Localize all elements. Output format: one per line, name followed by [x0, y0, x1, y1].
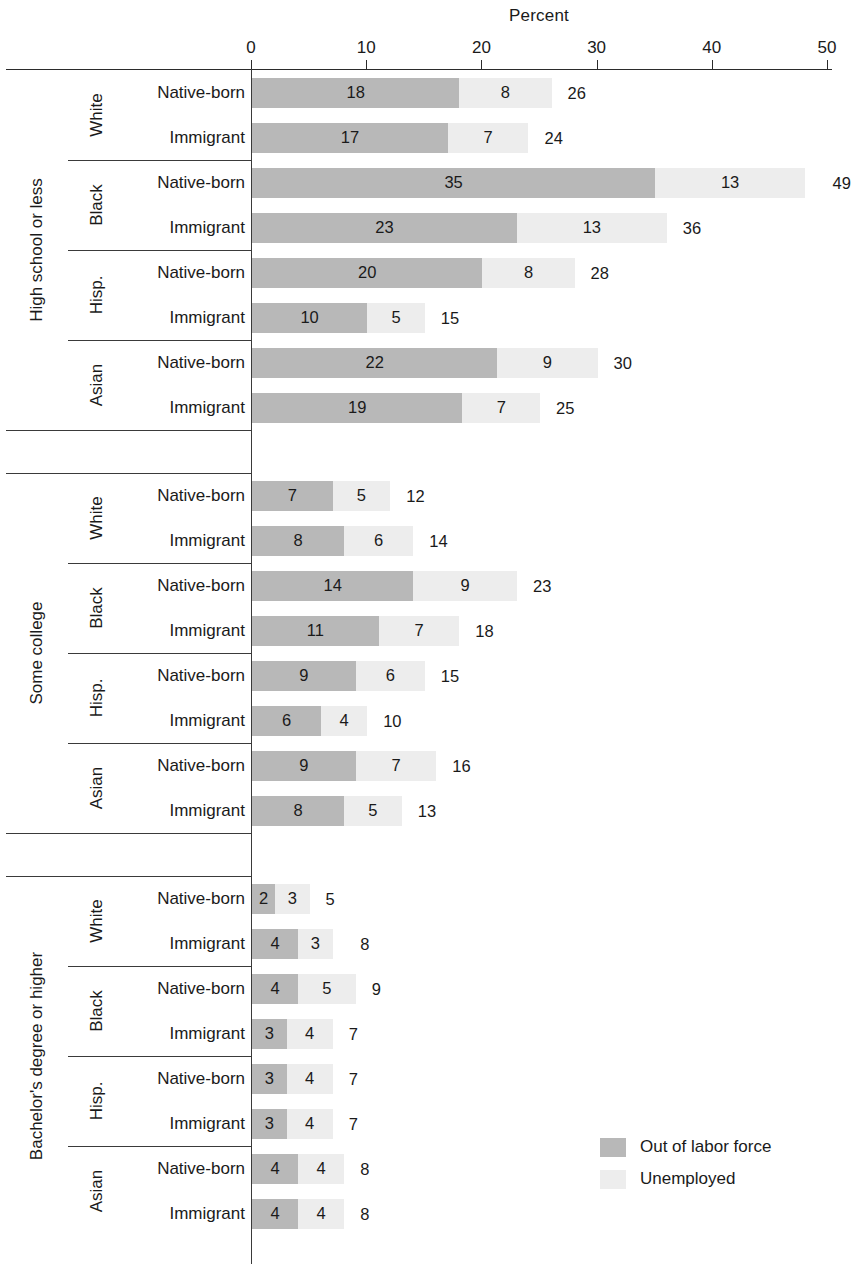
bar-segment-out-of-labor-force: 2: [252, 884, 275, 914]
group-label-race: Asian: [68, 340, 126, 430]
group-label-race-text: Hisp.: [87, 1082, 107, 1121]
group-label-education-text: High school or less: [27, 178, 47, 322]
legend-label: Unemployed: [640, 1169, 735, 1189]
bar-total-label: 15: [441, 308, 459, 327]
bar-total-label: 8: [360, 1204, 369, 1223]
bar-value-unemployed: 4: [305, 1025, 314, 1042]
group-label-race: Black: [68, 966, 126, 1056]
bar-segment-out-of-labor-force: 8: [252, 526, 344, 556]
bar-value-unemployed: 9: [461, 577, 470, 594]
bar-total-label: 7: [349, 1024, 358, 1043]
group-label-education-text: Some college: [27, 601, 47, 704]
bar-value-unemployed: 3: [288, 890, 297, 907]
bar-total-label: 18: [475, 621, 493, 640]
x-tick-label-20: 20: [472, 38, 491, 58]
bar-value-out-of-labor-force: 3: [265, 1070, 274, 1087]
group-label-race-text: White: [87, 93, 107, 136]
legend-label: Out of labor force: [640, 1137, 771, 1157]
section-separator-rule-top: [6, 833, 252, 834]
bar-value-out-of-labor-force: 18: [347, 84, 365, 101]
bar-total-label: 7: [349, 1114, 358, 1133]
bar-value-unemployed: 13: [721, 174, 739, 191]
race-separator-rule: [68, 743, 252, 744]
x-tick-mark-40: [712, 60, 713, 69]
race-separator-rule: [68, 340, 252, 341]
bar-value-out-of-labor-force: 20: [358, 264, 376, 281]
group-label-education-text: Bachelor's degree or higher: [27, 952, 47, 1160]
race-separator-rule: [68, 653, 252, 654]
group-label-race: White: [68, 876, 126, 966]
bar-segment-out-of-labor-force: 8: [252, 796, 344, 826]
group-label-education: Some college: [6, 473, 68, 833]
section-separator-rule-bottom: [6, 876, 252, 877]
section-separator-rule-bottom: [6, 473, 252, 474]
bar-value-out-of-labor-force: 8: [293, 802, 302, 819]
bar-segment-unemployed: 4: [321, 706, 367, 736]
bar-value-out-of-labor-force: 11: [307, 622, 324, 639]
row-label-nativity: Native-born: [157, 979, 245, 999]
stacked-bar: 197: [252, 393, 540, 423]
bar-value-out-of-labor-force: 3: [265, 1115, 274, 1132]
bar-segment-out-of-labor-force: 10: [252, 303, 367, 333]
row-label-nativity: Immigrant: [169, 398, 245, 418]
group-label-race-text: Asian: [87, 767, 107, 810]
bar-value-out-of-labor-force: 4: [270, 1205, 279, 1222]
stacked-bar: 188: [252, 78, 552, 108]
row-label-nativity: Native-born: [157, 173, 245, 193]
bar-segment-unemployed: 5: [298, 974, 356, 1004]
bar-segment-out-of-labor-force: 11: [252, 616, 379, 646]
bar-value-unemployed: 8: [501, 84, 510, 101]
group-label-race: Black: [68, 563, 126, 653]
bar-segment-out-of-labor-force: 4: [252, 974, 298, 1004]
row-label-nativity: Immigrant: [169, 1114, 245, 1134]
bar-total-label: 16: [452, 756, 470, 775]
race-separator-rule: [68, 563, 252, 564]
bar-segment-out-of-labor-force: 17: [252, 123, 448, 153]
race-separator-rule: [68, 1056, 252, 1057]
bar-value-out-of-labor-force: 3: [265, 1025, 274, 1042]
bar-segment-unemployed: 4: [298, 1154, 344, 1184]
bar-total-label: 9: [372, 979, 381, 998]
bar-value-unemployed: 5: [391, 309, 400, 326]
row-label-nativity: Immigrant: [169, 1204, 245, 1224]
bar-segment-out-of-labor-force: 9: [252, 751, 356, 781]
bar-value-unemployed: 6: [386, 667, 395, 684]
bar-value-unemployed: 9: [543, 354, 552, 371]
row-label-nativity: Native-born: [157, 576, 245, 596]
group-label-race-text: White: [87, 899, 107, 942]
bar-segment-unemployed: 8: [459, 78, 551, 108]
bar-segment-unemployed: 3: [298, 929, 333, 959]
row-label-nativity: Immigrant: [169, 308, 245, 328]
row-label-nativity: Immigrant: [169, 801, 245, 821]
bar-segment-unemployed: 5: [344, 796, 402, 826]
x-tick-label-30: 30: [587, 38, 606, 58]
bar-segment-out-of-labor-force: 20: [252, 258, 482, 288]
bar-segment-unemployed: 7: [448, 123, 529, 153]
bar-total-label: 30: [614, 353, 632, 372]
bar-value-out-of-labor-force: 9: [299, 757, 308, 774]
stacked-bar: 117: [252, 616, 459, 646]
bar-total-label: 25: [556, 398, 574, 417]
row-label-nativity: Immigrant: [169, 621, 245, 641]
bar-value-unemployed: 3: [311, 935, 320, 952]
bar-value-unemployed: 7: [391, 757, 400, 774]
legend-swatch-unemp: [600, 1170, 626, 1189]
bar-segment-unemployed: 4: [287, 1064, 333, 1094]
bar-segment-out-of-labor-force: 14: [252, 571, 413, 601]
bar-total-label: 5: [326, 889, 335, 908]
row-label-nativity: Native-born: [157, 756, 245, 776]
group-label-race-text: Hisp.: [87, 276, 107, 315]
stacked-bar: 45: [252, 974, 356, 1004]
group-label-race: White: [68, 70, 126, 160]
bar-segment-unemployed: 3: [275, 884, 310, 914]
stacked-bar: 34: [252, 1109, 333, 1139]
legend-swatch-olf: [600, 1138, 626, 1157]
bar-value-out-of-labor-force: 6: [282, 712, 291, 729]
bar-value-out-of-labor-force: 22: [365, 354, 383, 371]
bar-value-unemployed: 7: [497, 399, 506, 416]
stacked-bar: 85: [252, 796, 402, 826]
bar-value-unemployed: 13: [583, 219, 601, 236]
stacked-bar: 34: [252, 1019, 333, 1049]
x-tick-label-10: 10: [357, 38, 376, 58]
